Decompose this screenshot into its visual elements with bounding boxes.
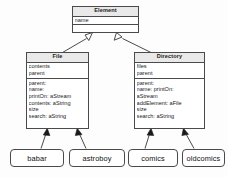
solid-arrowhead-comics [147, 128, 154, 135]
generalization-line-directory [123, 39, 152, 53]
instance-box-oldcomics[interactable]: oldcomics [182, 149, 225, 167]
solid-arrowhead-oldcomics [182, 128, 189, 135]
attribute-row: name [75, 18, 138, 25]
generalization-line-file [63, 39, 87, 53]
instance-edge-babar [41, 128, 50, 148]
operation-row: size [137, 107, 204, 114]
instance-box-comics[interactable]: comics [128, 149, 178, 167]
class-name-file: File [27, 53, 88, 63]
generalization-file-to-element [63, 33, 93, 53]
attribute-row: parent [29, 70, 88, 77]
class-attributes-file: contents parent [27, 63, 88, 80]
instance-label: comics [141, 154, 165, 163]
operation-row: name: printOn: [137, 87, 204, 94]
class-attributes-element: name [73, 17, 138, 26]
uml-class-diagram-canvas: Element name File contents parent parent… [0, 0, 228, 177]
operation-row: printOn: aStream [29, 94, 88, 101]
instance-line-astroboy [80, 134, 87, 149]
operation-row: parent: [29, 80, 88, 87]
solid-arrowhead-astroboy [75, 128, 82, 135]
instance-line-oldcomics [186, 134, 194, 149]
operation-row: name: [29, 87, 88, 94]
instance-label: astroboy [82, 154, 111, 163]
hollow-triangle-arrowhead-file [85, 33, 93, 41]
operation-row: size [29, 107, 88, 114]
class-name-element: Element [73, 7, 138, 17]
class-box-directory[interactable]: Directory files parent parent: name: pri… [134, 52, 205, 129]
instance-label: babar [27, 154, 46, 163]
instance-edge-comics [145, 128, 154, 148]
class-operations-directory: parent: name: printOn: aStream addElemen… [135, 79, 204, 121]
class-name-directory: Directory [135, 53, 204, 63]
operation-row: contents: aString [29, 101, 88, 108]
operation-row: parent: [137, 80, 204, 87]
operation-row: aStream [137, 94, 204, 101]
operation-row: search: aString [137, 114, 204, 121]
hollow-triangle-arrowhead-directory [114, 33, 122, 41]
class-operations-file: parent: name: printOn: aStream contents:… [27, 79, 88, 121]
generalization-directory-to-element [114, 33, 151, 53]
operation-row: addElement: aFile [137, 101, 204, 108]
instance-line-babar [41, 134, 46, 149]
instance-edge-astroboy [75, 128, 86, 148]
attribute-row: contents [29, 64, 88, 71]
class-box-file[interactable]: File contents parent parent: name: print… [26, 52, 89, 129]
instance-box-astroboy[interactable]: astroboy [69, 149, 125, 167]
attribute-row: parent [137, 70, 204, 77]
operation-row: search: aString [29, 114, 88, 121]
class-box-element[interactable]: Element name [72, 6, 139, 33]
class-operations-element [73, 25, 138, 33]
attribute-row: files [137, 64, 204, 71]
instance-label: oldcomics [187, 154, 221, 163]
instance-box-babar[interactable]: babar [10, 149, 64, 167]
instance-line-comics [145, 134, 150, 149]
solid-arrowhead-babar [43, 128, 50, 135]
class-attributes-directory: files parent [135, 63, 204, 80]
instance-edge-oldcomics [182, 128, 194, 148]
